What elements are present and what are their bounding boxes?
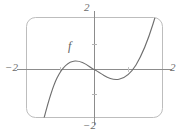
y-axis-bottom-label: −2 xyxy=(83,120,96,131)
graph-figure: 2 −2 −2 2 f xyxy=(0,0,186,138)
curve-label-f: f xyxy=(68,40,71,52)
x-axis-right-label: 2 xyxy=(170,62,176,73)
y-axis-top-label: 2 xyxy=(84,2,90,13)
x-axis-left-label: −2 xyxy=(5,62,18,73)
plot-svg xyxy=(0,0,186,138)
